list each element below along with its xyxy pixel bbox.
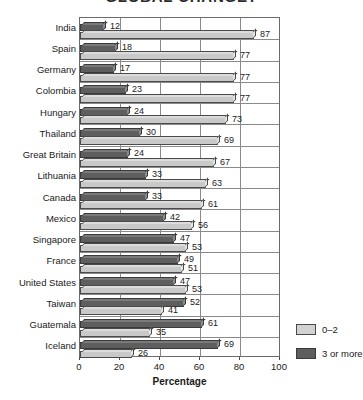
bar-top-face [82, 51, 238, 54]
x-axis-tick [119, 357, 120, 360]
x-axis-tick [199, 357, 200, 360]
category-label: Iceland [0, 340, 76, 351]
chart-row: 2473 [80, 103, 281, 124]
x-axis: 020406080100 [79, 357, 280, 375]
category-label: Mexico [0, 213, 76, 224]
legend-item: 3 or more [296, 346, 362, 364]
category-label: Great Britain [0, 149, 76, 160]
bar-top-face [82, 349, 136, 352]
chart-row: 4951 [80, 252, 281, 273]
bar-top-face [82, 85, 130, 88]
bar-top-face [82, 255, 182, 258]
x-axis-tick [239, 357, 240, 360]
bar-light [80, 96, 234, 103]
bar-top-face [82, 221, 196, 224]
chart-legend: 0–23 or more [296, 322, 362, 370]
bar-light [80, 75, 234, 82]
bar-group: 77 [80, 50, 281, 60]
bar-group: 51 [80, 263, 281, 273]
bar-top-face [82, 115, 230, 118]
bar-light [80, 330, 150, 337]
chart-row: 3361 [80, 188, 281, 209]
chart-row: 5241 [80, 294, 281, 315]
category-label: India [0, 22, 76, 33]
legend-swatch [296, 348, 316, 359]
bar-light [80, 160, 214, 167]
bar-chart: GLOBAL CHANGE? IndiaSpainGermanyColombia… [0, 0, 363, 400]
chart-row: 2377 [80, 82, 281, 103]
bar-top-face [82, 328, 154, 331]
category-label: Hungary [0, 107, 76, 118]
bar-top-face [82, 128, 144, 131]
bar-group: 67 [80, 157, 281, 167]
bar-top-face [82, 200, 206, 203]
bar-light [80, 287, 186, 294]
bar-side-face [201, 199, 204, 209]
x-axis-tick [79, 357, 80, 360]
bar-side-face [185, 284, 188, 294]
bar-top-face [82, 277, 178, 280]
x-axis-tick-label: 40 [154, 361, 165, 372]
bar-light [80, 138, 218, 145]
bar-side-face [181, 262, 184, 272]
x-axis-tick-label: 60 [194, 361, 205, 372]
category-label: Thailand [0, 128, 76, 139]
bar-top-face [82, 243, 190, 246]
bar-side-face [161, 305, 164, 315]
x-axis-tick [279, 357, 280, 360]
bar-side-face [225, 114, 228, 124]
bar-top-face [82, 192, 150, 195]
chart-row: 1287 [80, 18, 281, 39]
category-label-column: IndiaSpainGermanyColombiaHungaryThailand… [0, 17, 76, 357]
category-label: Germany [0, 64, 76, 75]
category-label: United States [0, 277, 76, 288]
bar-group: 69 [80, 135, 281, 145]
bar-top-face [82, 136, 222, 139]
x-axis-tick-label: 20 [114, 361, 125, 372]
bar-group: 53 [80, 284, 281, 294]
bar-group: 35 [80, 327, 281, 337]
category-label: Colombia [0, 85, 76, 96]
category-label: Taiwan [0, 298, 76, 309]
bar-side-face [131, 347, 134, 357]
bar-light [80, 266, 182, 273]
bar-group: 73 [80, 114, 281, 124]
bar-light [80, 245, 186, 252]
bar-group: 53 [80, 242, 281, 252]
legend-item: 0–2 [296, 322, 362, 340]
category-label: France [0, 255, 76, 266]
category-label: Lithuania [0, 170, 76, 181]
legend-label: 0–2 [322, 323, 338, 336]
x-axis-tick-label: 80 [234, 361, 245, 372]
x-axis-tick-label: 100 [271, 361, 287, 372]
bar-top-face [82, 264, 186, 267]
bar-group: 87 [80, 29, 281, 39]
bar-group: 63 [80, 178, 281, 188]
category-label: Spain [0, 43, 76, 54]
bar-side-face [233, 92, 236, 102]
bar-top-face [82, 306, 166, 309]
bar-light [80, 202, 202, 209]
chart-row: 3069 [80, 124, 281, 145]
bar-top-face [82, 234, 178, 237]
bar-side-face [191, 220, 194, 230]
bar-side-face [233, 50, 236, 60]
x-axis-tick [159, 357, 160, 360]
chart-row: 1777 [80, 61, 281, 82]
bar-light [80, 117, 226, 124]
chart-row: 1877 [80, 39, 281, 60]
bar-top-face [82, 340, 222, 343]
chart-row: 6135 [80, 316, 281, 337]
bar-side-face [149, 326, 152, 336]
bar-top-face [82, 179, 210, 182]
bar-top-face [82, 107, 132, 110]
chart-row: 4256 [80, 209, 281, 230]
plot-area: 1287187717772377247330692467336333614256… [79, 17, 280, 357]
bar-top-face [82, 170, 150, 173]
bar-top-face [82, 298, 188, 301]
bar-side-face [205, 177, 208, 187]
bar-group: 77 [80, 72, 281, 82]
bar-side-face [253, 29, 256, 39]
bar-group: 61 [80, 199, 281, 209]
bar-top-face [82, 149, 132, 152]
